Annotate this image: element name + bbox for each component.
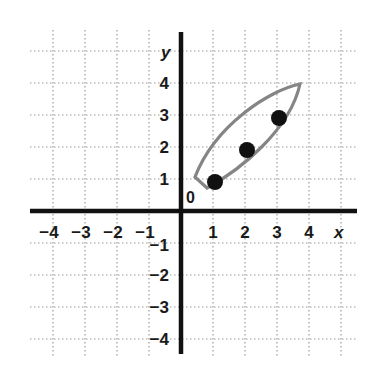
x-tick-label: −2 [103, 223, 122, 242]
data-point [207, 174, 223, 190]
data-point [271, 110, 287, 126]
x-tick-label: 4 [304, 223, 314, 242]
y-tick-label: −1 [150, 236, 169, 255]
coordinate-plane: −4−3−2−112344321−1−2−3−4 x y 0 [0, 0, 369, 384]
data-points [207, 110, 287, 190]
x-tick-label: 3 [272, 223, 281, 242]
y-tick-label: −3 [150, 298, 169, 317]
y-tick-label: 1 [160, 170, 169, 189]
y-tick-label: 4 [160, 74, 170, 93]
y-tick-label: 2 [160, 138, 169, 157]
data-point [239, 142, 255, 158]
enclosing-loop [195, 84, 300, 188]
x-tick-label: −4 [39, 223, 59, 242]
y-tick-label: −4 [150, 330, 170, 349]
x-tick-label: 1 [208, 223, 217, 242]
x-axis-label: x [333, 223, 345, 242]
y-tick-label: 3 [160, 106, 169, 125]
x-tick-label: 2 [240, 223, 249, 242]
x-tick-label: −3 [71, 223, 90, 242]
y-tick-label: −2 [150, 266, 169, 285]
y-axis-label: y [160, 43, 172, 62]
origin-label: 0 [186, 189, 195, 206]
